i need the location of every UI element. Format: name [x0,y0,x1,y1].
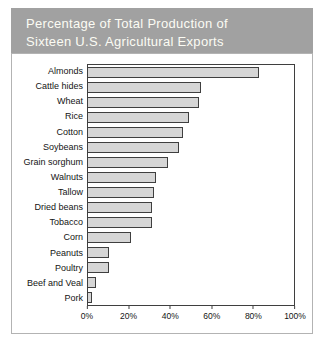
tick-label: 100% [284,311,306,321]
x-tick: 60% [203,306,220,321]
bar-row [88,82,294,93]
chart-title-line2: Sixteen U.S. Agricultural Exports [26,33,305,51]
bar-row [88,247,294,258]
category-label: Cotton [12,127,83,138]
category-label: Dried beans [12,202,83,213]
bar [88,67,259,78]
bar-row [88,142,294,153]
tick-mark [253,306,254,309]
tick-mark [211,306,212,309]
bar-row [88,262,294,273]
x-tick: 80% [245,306,262,321]
category-label: Pork [12,293,83,304]
tick-label: 60% [203,311,220,321]
bar-row [88,187,294,198]
bar [88,292,92,303]
x-tick: 0% [81,306,93,321]
bar [88,127,183,138]
x-tick: 100% [284,306,306,321]
bar-row [88,232,294,243]
category-label: Beef and Veal [12,278,83,289]
category-label: Poultry [12,263,83,274]
bar-row [88,157,294,168]
chart-card: Percentage of Total Production of Sixtee… [11,8,313,334]
bar [88,82,201,93]
category-label: Tallow [12,187,83,198]
x-tick: 40% [162,306,179,321]
bar-row [88,67,294,78]
x-axis: 0%20%40%60%80%100% [87,306,295,324]
tick-label: 80% [245,311,262,321]
tick-mark [86,306,87,309]
category-label: Walnuts [12,172,83,183]
bar [88,247,109,258]
bar [88,217,152,228]
bar [88,112,189,123]
bar-row [88,292,294,303]
bar-row [88,127,294,138]
bar-row [88,172,294,183]
category-label: Grain sorghum [12,157,83,168]
category-label: Corn [12,232,83,243]
category-label: Peanuts [12,248,83,259]
category-label: Soybeans [12,142,83,153]
category-labels: AlmondsCattle hidesWheatRiceCottonSoybea… [12,64,83,306]
chart-title-line1: Percentage of Total Production of [26,15,305,33]
bar [88,202,152,213]
chart-title-bar: Percentage of Total Production of Sixtee… [11,8,313,53]
bar [88,142,179,153]
category-label: Cattle hides [12,81,83,92]
plot-box [87,64,295,306]
bar [88,262,109,273]
bar [88,97,199,108]
category-label: Tobacco [12,217,83,228]
category-label: Wheat [12,96,83,107]
bar-row [88,217,294,228]
bar-row [88,277,294,288]
tick-label: 0% [81,311,93,321]
tick-mark [170,306,171,309]
bar [88,172,156,183]
bar [88,157,168,168]
bar-row [88,112,294,123]
bar [88,187,154,198]
bar-row [88,97,294,108]
category-label: Almonds [12,66,83,77]
bar [88,277,96,288]
tick-mark [295,306,296,309]
category-label: Rice [12,111,83,122]
bar-row [88,202,294,213]
tick-label: 20% [120,311,137,321]
tick-mark [128,306,129,309]
chart-area: AlmondsCattle hidesWheatRiceCottonSoybea… [11,53,313,334]
tick-label: 40% [162,311,179,321]
bar [88,232,131,243]
x-tick: 20% [120,306,137,321]
